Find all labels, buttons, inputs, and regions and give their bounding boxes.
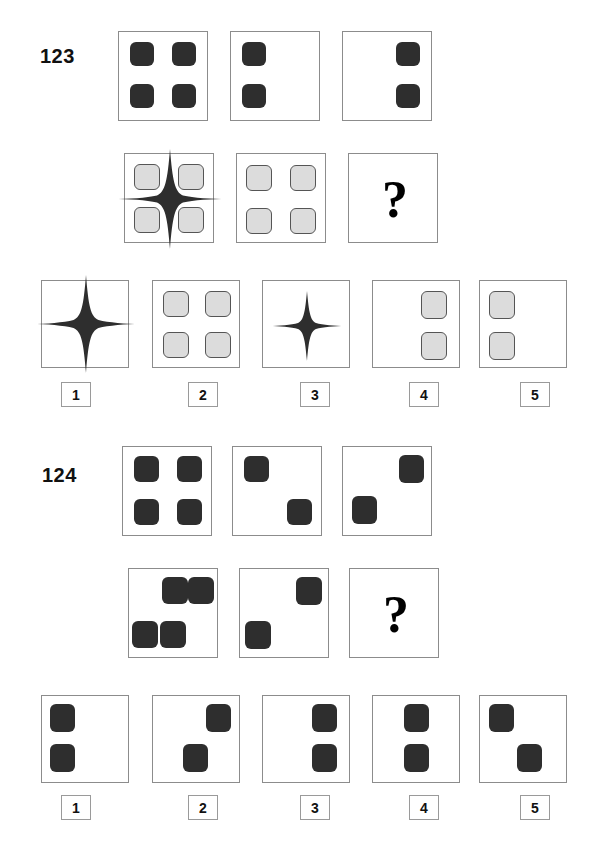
dark-square	[183, 744, 208, 772]
item-124-label: 124	[42, 465, 77, 485]
item-124-option-5-number[interactable]: 5	[520, 795, 550, 820]
dark-square	[404, 704, 429, 732]
item-123-label: 123	[40, 46, 75, 66]
dark-square	[50, 744, 75, 772]
dark-square	[130, 84, 154, 108]
question-mark: ?	[382, 174, 408, 226]
dark-square	[172, 84, 196, 108]
dark-square	[50, 704, 75, 732]
dark-square	[296, 577, 322, 605]
four-point-star-icon	[32, 275, 140, 373]
item-123-matrix-cell-r2c3-answer: ?	[348, 153, 438, 243]
light-square	[290, 208, 316, 234]
item-124-option-3-number[interactable]: 3	[300, 795, 330, 820]
dark-square	[404, 744, 429, 772]
dark-square	[172, 42, 196, 66]
light-square	[163, 291, 189, 317]
item-123-matrix-cell-r2c1	[124, 153, 214, 243]
item-124-option-2-number[interactable]: 2	[188, 795, 218, 820]
dark-square	[245, 621, 271, 649]
item-123-option-4-number[interactable]: 4	[409, 382, 439, 407]
light-square	[489, 332, 515, 360]
item-124-matrix-cell-r1c1	[122, 446, 212, 536]
item-124-matrix-cell-r2c3-answer: ?	[349, 568, 439, 658]
dark-square	[242, 84, 266, 108]
dark-square	[206, 704, 231, 732]
item-124-option-1-number[interactable]: 1	[61, 795, 91, 820]
dark-square	[162, 577, 188, 604]
light-square	[246, 165, 272, 191]
item-124-matrix-cell-r1c3	[342, 446, 432, 536]
dark-square	[489, 704, 514, 732]
item-124-option-4-number[interactable]: 4	[409, 795, 439, 820]
four-point-star-icon	[113, 149, 227, 249]
dark-square	[134, 499, 159, 525]
item-123-option-5[interactable]	[479, 280, 567, 368]
item-124-option-3[interactable]	[262, 695, 350, 783]
light-square	[489, 291, 515, 319]
light-square	[421, 332, 447, 360]
item-124-matrix-cell-r2c1	[128, 568, 218, 658]
item-124-option-4[interactable]	[372, 695, 460, 783]
item-123-option-2-number[interactable]: 2	[188, 382, 218, 407]
dark-square	[132, 621, 158, 648]
dark-square	[396, 84, 420, 108]
item-123-option-4[interactable]	[372, 280, 460, 368]
item-123-option-5-number[interactable]: 5	[520, 382, 550, 407]
item-123-option-1-number[interactable]: 1	[61, 382, 91, 407]
light-square	[421, 291, 447, 319]
dark-square	[352, 496, 377, 524]
dark-square	[177, 456, 202, 482]
dark-square	[134, 456, 159, 482]
test-page: 123	[0, 0, 603, 862]
four-point-star-icon	[269, 291, 345, 361]
light-square	[290, 165, 316, 191]
item-124-option-5[interactable]	[479, 695, 567, 783]
dark-square	[399, 455, 424, 483]
dark-square	[312, 744, 337, 772]
item-124-matrix-cell-r2c2	[239, 568, 329, 658]
light-square	[246, 208, 272, 234]
item-123-option-3-number[interactable]: 3	[300, 382, 330, 407]
item-123-option-3[interactable]	[262, 280, 350, 368]
item-123-matrix-cell-r1c2	[230, 31, 320, 121]
dark-square	[517, 744, 542, 772]
question-mark: ?	[383, 589, 409, 641]
item-123-option-1[interactable]	[41, 280, 129, 368]
item-123-matrix-cell-r2c2	[236, 153, 326, 243]
dark-square	[396, 42, 420, 66]
light-square	[205, 332, 231, 358]
item-123-option-2[interactable]	[152, 280, 240, 368]
light-square	[163, 332, 189, 358]
dark-square	[130, 42, 154, 66]
dark-square	[160, 621, 186, 648]
light-square	[205, 291, 231, 317]
item-123-matrix-cell-r1c3	[342, 31, 432, 121]
dark-square	[287, 499, 312, 525]
item-124-option-1[interactable]	[41, 695, 129, 783]
dark-square	[177, 499, 202, 525]
item-124-option-2[interactable]	[152, 695, 240, 783]
dark-square	[188, 577, 214, 604]
dark-square	[244, 456, 269, 482]
dark-square	[312, 704, 337, 732]
dark-square	[242, 42, 266, 66]
item-124-matrix-cell-r1c2	[232, 446, 322, 536]
item-123-matrix-cell-r1c1	[118, 31, 208, 121]
